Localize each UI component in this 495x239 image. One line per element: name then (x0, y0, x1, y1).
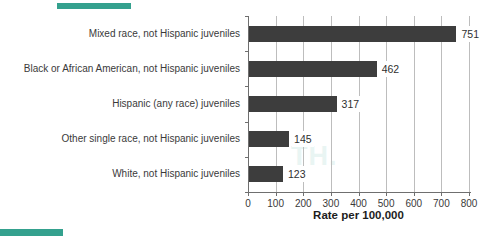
value-label: 317 (340, 96, 362, 112)
bar (249, 96, 337, 112)
y-axis-tick (245, 86, 248, 87)
bar (249, 26, 456, 42)
bar (249, 61, 377, 77)
y-axis-tick (245, 157, 248, 158)
y-axis-tick (245, 122, 248, 123)
x-axis-tick (469, 193, 470, 196)
x-tick-label: 400 (344, 198, 374, 209)
y-axis-tick (245, 16, 248, 17)
value-label: 462 (380, 61, 402, 77)
x-axis-tick (276, 193, 277, 196)
x-tick-label: 300 (316, 198, 346, 209)
gridline (441, 16, 442, 192)
gridline (386, 16, 387, 192)
bar (249, 131, 289, 147)
value-label: 751 (459, 26, 481, 42)
category-label: White, not Hispanic juveniles (0, 166, 240, 182)
x-axis-tick (359, 193, 360, 196)
x-axis-tick (331, 193, 332, 196)
x-tick-label: 500 (371, 198, 401, 209)
x-axis-tick (386, 193, 387, 196)
category-label: Mixed race, not Hispanic juveniles (0, 26, 240, 42)
y-axis-line (248, 16, 249, 192)
x-axis-tick (248, 193, 249, 196)
x-tick-label: 200 (288, 198, 318, 209)
value-label: 123 (286, 166, 308, 182)
x-tick-label: 700 (426, 198, 456, 209)
x-tick-label: 100 (261, 198, 291, 209)
x-axis-tick (303, 193, 304, 196)
x-tick-label: 800 (454, 198, 484, 209)
category-label: Black or African American, not Hispanic … (0, 61, 240, 77)
x-axis-tick (441, 193, 442, 196)
gridline (414, 16, 415, 192)
category-label: Hispanic (any race) juveniles (0, 96, 240, 112)
y-axis-tick (245, 51, 248, 52)
chart-plot-area: 0100200300400500600700800Mixed race, not… (0, 0, 495, 239)
gridline (469, 16, 470, 192)
category-label: Other single race, not Hispanic juvenile… (0, 131, 240, 147)
x-axis-title: Rate per 100,000 (248, 209, 469, 221)
value-label: 145 (292, 131, 314, 147)
x-tick-label: 600 (399, 198, 429, 209)
x-tick-label: 0 (233, 198, 263, 209)
bar (249, 166, 283, 182)
bar-chart-figure: TH. 0100200300400500600700800Mixed race,… (0, 0, 495, 239)
x-axis-tick (414, 193, 415, 196)
